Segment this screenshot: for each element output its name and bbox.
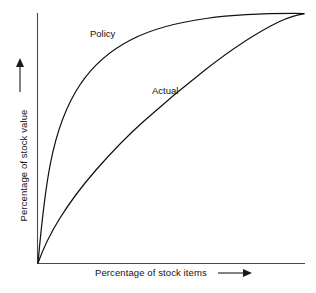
x-axis-right-arrow-icon [218, 269, 252, 277]
y-axis-label: Percentage of stock value [18, 96, 29, 236]
policy-series-label: Policy [90, 28, 116, 39]
stock-value-vs-items-chart: Policy Actual [0, 0, 316, 293]
actual-curve [38, 14, 304, 263]
chart-figure: Policy Actual Percentage of stock items … [0, 0, 316, 293]
policy-curve [38, 13, 304, 263]
x-axis-label: Percentage of stock items [95, 267, 207, 278]
actual-series-label: Actual [152, 85, 178, 96]
y-axis-up-arrow-icon [16, 58, 24, 92]
